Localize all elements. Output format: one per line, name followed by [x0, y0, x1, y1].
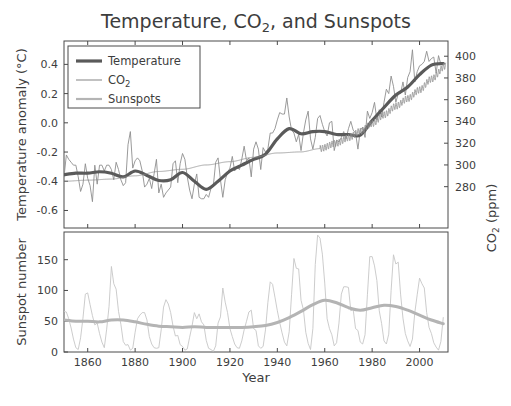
y-tick-label-right: 400 [455, 50, 476, 63]
y-tick-label-right: 360 [455, 94, 476, 107]
figure-container: Temperature, CO2, and Sunspots 186018801… [0, 0, 511, 406]
chart-title: Temperature, CO2, and Sunspots [100, 10, 411, 35]
y-tick-label-sunspot: 150 [37, 254, 58, 267]
legend-label-sunspots: Sunspots [108, 92, 161, 106]
x-tick-label: 1980 [358, 356, 386, 369]
y-tick-label-sunspot: 50 [44, 315, 58, 328]
y-tick-label: -0.6 [37, 204, 58, 217]
y-tick-label-sunspot: 0 [51, 346, 58, 359]
chart-legend: TemperatureCO2Sunspots [68, 46, 200, 108]
y-tick-label: 0.4 [41, 58, 59, 71]
x-tick-label: 1920 [216, 356, 244, 369]
y-tick-label: 0.0 [41, 117, 59, 130]
y-tick-label-right: 300 [455, 159, 476, 172]
x-tick-label: 1900 [169, 356, 197, 369]
y-axis-label-sunspot: Sunspot number [14, 238, 29, 346]
x-tick-label: 1940 [263, 356, 291, 369]
y-tick-label: 0.2 [41, 88, 59, 101]
y-tick-label-right: 320 [455, 137, 476, 150]
y-tick-label: -0.2 [37, 146, 58, 159]
y-tick-label-right: 280 [455, 181, 476, 194]
x-tick-label: 2000 [406, 356, 434, 369]
y-tick-label: -0.4 [37, 175, 58, 188]
x-axis-label: Year [241, 370, 270, 385]
y-axis-label-temperature: Temperature anomaly (°C) [14, 48, 29, 221]
y-axis-label-co2: CO2 (ppm) [484, 184, 501, 253]
y-tick-label-sunspot: 100 [37, 284, 58, 297]
chart-svg: Temperature, CO2, and Sunspots 186018801… [0, 0, 511, 406]
legend-label-temperature: Temperature [107, 54, 181, 68]
x-tick-label: 1860 [74, 356, 102, 369]
x-tick-label: 1880 [121, 356, 149, 369]
y-tick-label-right: 380 [455, 72, 476, 85]
y-tick-label-right: 340 [455, 115, 476, 128]
x-tick-label: 1960 [311, 356, 339, 369]
